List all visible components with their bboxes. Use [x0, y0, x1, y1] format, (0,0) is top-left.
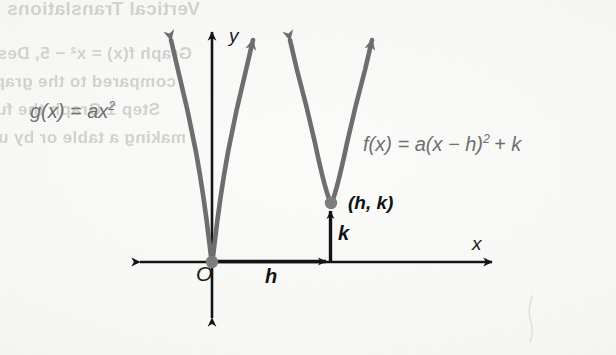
graph-canvas [0, 0, 616, 355]
f-equation-base: f(x) = a(x − h) [363, 133, 483, 155]
vertex-point-label: (h, k) [348, 192, 393, 214]
label-f-equation: f(x) = a(x − h)2+ k [363, 132, 521, 156]
y-axis-label: y [229, 25, 239, 47]
x-axis-label: x [472, 233, 482, 255]
k-segment-label: k [338, 222, 349, 245]
parabola-translation-figure: Vertical Translations Graph f(x) = x² − … [0, 0, 616, 355]
h-segment-label: h [265, 265, 277, 288]
f-equation-exponent: 2 [483, 132, 490, 146]
curve-f-parabola [290, 40, 372, 204]
f-equation-suffix: + k [494, 133, 521, 155]
translated-vertex-dot [325, 197, 337, 209]
origin-label: O [196, 262, 212, 286]
g-equation-exponent: 2 [108, 99, 115, 113]
stray-scan-mark [529, 296, 532, 342]
label-g-equation: g(x) = ax2 [30, 99, 115, 123]
g-equation-base: g(x) = ax [30, 100, 108, 122]
